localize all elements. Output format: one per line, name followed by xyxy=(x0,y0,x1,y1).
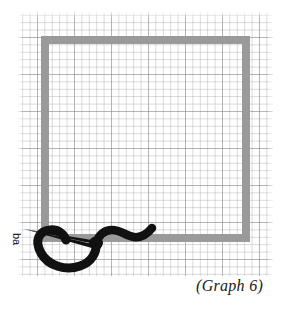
graph-caption: (Graph 6) xyxy=(196,277,263,295)
figure-canvas xyxy=(0,0,288,318)
graph-figure: ba (Graph 6) xyxy=(0,0,288,318)
curve-label-ba: ba xyxy=(6,228,28,250)
